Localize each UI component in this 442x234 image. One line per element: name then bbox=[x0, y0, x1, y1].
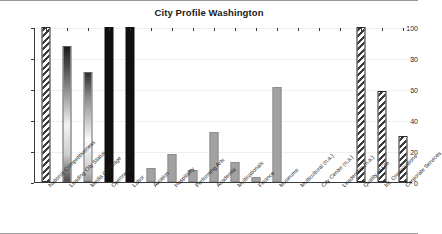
bar bbox=[104, 27, 113, 182]
x-tick-mark bbox=[340, 28, 341, 31]
bar-slot bbox=[161, 28, 182, 182]
x-tick-mark bbox=[214, 28, 215, 31]
x-tick-mark bbox=[403, 28, 404, 31]
bar bbox=[41, 27, 50, 182]
bar-slot bbox=[35, 28, 56, 182]
x-tick-mark bbox=[130, 28, 131, 31]
x-tick-mark bbox=[193, 28, 194, 31]
x-tick-mark bbox=[298, 28, 299, 31]
bar-slot bbox=[140, 28, 161, 182]
x-tick-mark bbox=[46, 28, 47, 31]
bar-slot bbox=[245, 28, 266, 182]
bar-slot bbox=[266, 28, 287, 182]
x-tick-mark bbox=[277, 28, 278, 31]
x-tick-mark bbox=[235, 28, 236, 31]
x-tick-mark bbox=[172, 28, 173, 31]
x-tick-mark bbox=[67, 28, 68, 31]
x-axis-labels: National CompetitivenessLeading City Sta… bbox=[34, 184, 412, 232]
x-tick-mark bbox=[109, 28, 110, 31]
chart-title: City Profile Washington bbox=[0, 7, 418, 18]
bar bbox=[167, 154, 176, 182]
x-tick-mark bbox=[151, 28, 152, 31]
bar bbox=[272, 87, 281, 182]
bar-slot bbox=[182, 28, 203, 182]
x-tick-mark bbox=[361, 28, 362, 31]
x-tick-mark bbox=[382, 28, 383, 31]
x-tick-mark bbox=[88, 28, 89, 31]
bar-slot bbox=[224, 28, 245, 182]
x-tick-mark bbox=[256, 28, 257, 31]
bar bbox=[125, 27, 134, 182]
bar-slot bbox=[287, 28, 308, 182]
x-tick-mark bbox=[319, 28, 320, 31]
bar bbox=[146, 168, 155, 182]
bar bbox=[356, 27, 365, 182]
